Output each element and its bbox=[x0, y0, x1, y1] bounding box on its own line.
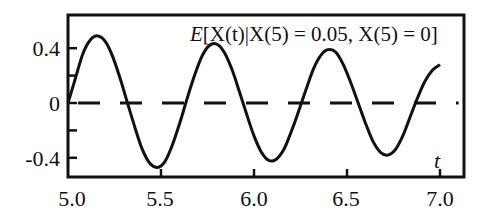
title-expectation-symbol: E bbox=[189, 22, 203, 46]
x-tick-label-7.0: 7.0 bbox=[426, 186, 454, 211]
x-axis-label: t bbox=[434, 148, 441, 173]
y-tick-label-0.4: 0.4 bbox=[33, 36, 61, 61]
plot-lines bbox=[68, 36, 459, 168]
y-tick-label-neg0.4: -0.4 bbox=[25, 146, 60, 171]
x-tick-label-5.5: 5.5 bbox=[146, 186, 174, 211]
line-chart: 0.4 0 -0.4 5.0 5.5 6.0 6.5 7.0 t E[X(t)|… bbox=[0, 0, 484, 221]
x-tick-label-6.0: 6.0 bbox=[240, 186, 268, 211]
y-tick-label-0: 0 bbox=[49, 91, 60, 116]
x-tick-label-5.0: 5.0 bbox=[58, 186, 86, 211]
chart-title: E[X(t)|X(5) = 0.05, X(5) = 0] bbox=[189, 22, 438, 46]
title-body: [X(t)|X(5) = 0.05, X(5) = 0] bbox=[203, 22, 438, 46]
x-tick-label-6.5: 6.5 bbox=[332, 186, 360, 211]
